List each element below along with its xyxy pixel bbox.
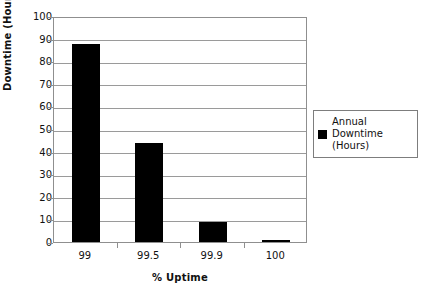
bar <box>262 240 290 242</box>
plot-area <box>53 17 307 243</box>
legend-label-annual-downtime: Annual Downtime (Hours) <box>332 116 413 152</box>
x-tick-mark <box>244 243 245 248</box>
x-tick-mark <box>180 243 181 248</box>
bar <box>72 44 100 242</box>
gridline <box>54 40 306 41</box>
bar-chart: Downtime (Hours) 0102030405060708090100 … <box>0 0 428 293</box>
legend: Annual Downtime (Hours) <box>313 110 418 158</box>
x-axis-title: % Uptime <box>53 272 307 283</box>
x-tick-mark <box>117 243 118 248</box>
x-tick-label: 99 <box>55 250 115 261</box>
y-axis-title: Downtime (Hours) <box>2 0 22 98</box>
legend-swatch-annual-downtime <box>318 130 327 139</box>
y-tick-mark <box>48 243 53 244</box>
x-tick-label: 100 <box>245 250 305 261</box>
bar <box>199 222 227 242</box>
x-tick-label: 99.5 <box>118 250 178 261</box>
x-tick-label: 99.9 <box>182 250 242 261</box>
bar <box>135 143 163 242</box>
